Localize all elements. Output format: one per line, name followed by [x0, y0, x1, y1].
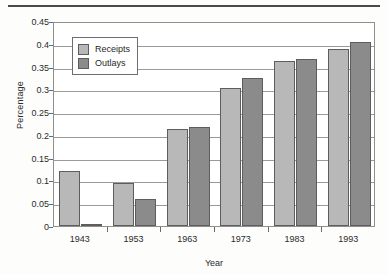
- bar-receipts-1983: [274, 61, 295, 226]
- x-axis-tick-label: 1943: [50, 234, 110, 244]
- bar-group: [269, 23, 323, 226]
- legend-item-outlays: Outlays: [78, 56, 130, 70]
- y-axis-tick-label: 0.4: [9, 40, 49, 50]
- bar-receipts-1953: [113, 183, 134, 226]
- bar-outlays-1973: [242, 78, 263, 227]
- x-axis-tick-label: 1963: [157, 234, 217, 244]
- bar-receipts-1973: [220, 88, 241, 226]
- bar-outlays-1943: [81, 224, 102, 226]
- y-axis-tick-label: 0.1: [9, 176, 49, 186]
- y-axis-tick-label: 0.25: [9, 108, 49, 118]
- bar-outlays-1993: [350, 42, 371, 227]
- y-axis-tick-label: 0: [9, 222, 49, 232]
- x-axis-tick-mark: [107, 227, 108, 232]
- x-axis-tick-mark: [268, 227, 269, 232]
- bar-outlays-1983: [296, 59, 317, 226]
- bar-outlays-1963: [189, 127, 210, 226]
- legend-label: Outlays: [95, 58, 126, 68]
- bar-receipts-1993: [328, 49, 349, 226]
- legend-label: Receipts: [95, 44, 130, 54]
- bar-receipts-1943: [59, 171, 80, 226]
- x-axis-tick-label: 1993: [318, 234, 378, 244]
- x-axis-tick-label: 1953: [104, 234, 164, 244]
- bar-receipts-1963: [167, 129, 188, 226]
- x-axis-tick-mark: [214, 227, 215, 232]
- bar-group: [161, 23, 215, 226]
- y-axis-tick-label: 0.45: [9, 17, 49, 27]
- y-axis-tick-label: 0.3: [9, 85, 49, 95]
- top-divider-rule: [8, 5, 380, 7]
- y-axis-tick-label: 0.35: [9, 63, 49, 73]
- bar-group: [215, 23, 269, 226]
- x-axis-tick-mark: [160, 227, 161, 232]
- x-axis-title: Year: [53, 258, 375, 268]
- chart-legend: ReceiptsOutlays: [72, 37, 138, 75]
- x-axis-tick-label: 1973: [211, 234, 271, 244]
- chart-figure: Percentage 00.050.10.150.20.250.30.350.4…: [0, 0, 388, 275]
- y-axis-tick-label: 0.15: [9, 154, 49, 164]
- x-axis-tick-label: 1983: [265, 234, 325, 244]
- legend-item-receipts: Receipts: [78, 42, 130, 56]
- bar-group: [322, 23, 376, 226]
- y-axis-tick-mark: [49, 227, 53, 228]
- legend-swatch-outlays: [78, 58, 89, 69]
- bar-outlays-1953: [135, 199, 156, 226]
- y-axis-tick-label: 0.2: [9, 131, 49, 141]
- legend-swatch-receipts: [78, 44, 89, 55]
- y-axis-tick-label: 0.05: [9, 199, 49, 209]
- x-axis-tick-mark: [321, 227, 322, 232]
